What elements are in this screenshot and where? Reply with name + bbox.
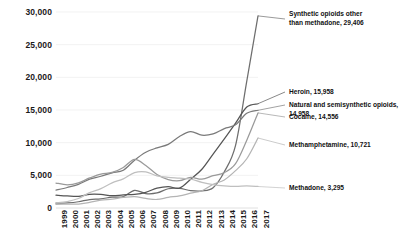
x-axis-tick: 2010	[183, 210, 192, 228]
leader-line	[258, 16, 285, 19]
x-axis-tick: 2016	[250, 210, 259, 228]
x-axis-tick: 2004	[116, 210, 125, 228]
x-axis-tick: 2017	[262, 210, 271, 228]
x-axis-tick: 2003	[104, 210, 113, 228]
series-annotation: Methamphetamine, 10,721	[289, 141, 371, 150]
overdose-deaths-line-chart: 05,00010,00015,00020,00025,00030,000 199…	[0, 0, 418, 251]
x-axis-tick: 2002	[93, 210, 102, 228]
leader-line	[258, 138, 285, 145]
leader-line	[258, 92, 285, 104]
x-axis-tick: 2000	[71, 210, 80, 228]
x-axis-tick: 2015	[239, 210, 248, 228]
x-axis-tick: 2012	[205, 210, 214, 228]
leader-line	[258, 187, 285, 189]
x-axis-tick: 2006	[138, 210, 147, 228]
leader-line	[258, 105, 285, 110]
x-axis-labels: 1999200020012002200320042005200620072008…	[56, 210, 258, 250]
x-axis-tick: 2005	[127, 210, 136, 228]
x-axis-tick: 2007	[149, 210, 158, 228]
x-axis-tick: 2011	[194, 210, 203, 228]
series-annotation: Cocaine, 14,556	[289, 113, 338, 122]
x-axis-tick: 2001	[82, 210, 91, 228]
x-axis-tick: 2013	[217, 210, 226, 228]
x-axis-tick: 1999	[60, 210, 69, 228]
x-axis-tick: 2008	[161, 210, 170, 228]
leader-line	[258, 113, 285, 117]
series-annotation: Heroin, 15,958	[289, 88, 334, 97]
x-axis-tick: 2009	[172, 210, 181, 228]
series-annotation: Synthetic opioids other than methadone, …	[289, 10, 364, 27]
x-axis-tick: 2014	[228, 210, 237, 228]
series-annotation: Methadone, 3,295	[289, 184, 344, 193]
